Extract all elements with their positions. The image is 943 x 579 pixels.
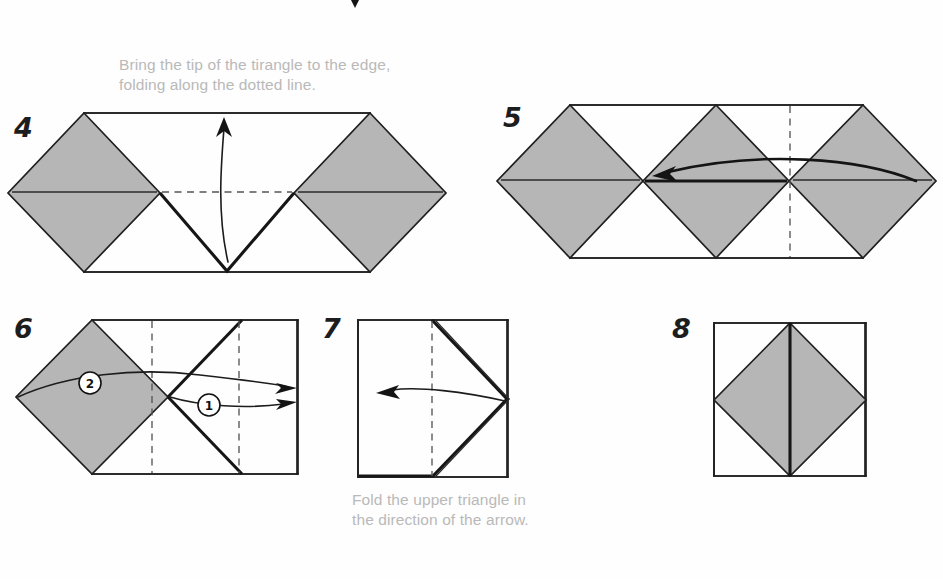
step-8-number: 8 xyxy=(672,313,691,344)
step-6-figure: 2 1 6 xyxy=(14,313,298,474)
step-marker-2: 2 xyxy=(79,372,101,394)
cropped-arrowhead-icon xyxy=(347,0,363,8)
step-8-figure: 8 xyxy=(672,313,866,476)
step-5-figure: 5 xyxy=(497,102,936,258)
step-7-caption-line-2: the direction of the arrow. xyxy=(352,511,529,528)
step-5-number: 5 xyxy=(503,102,522,133)
step-4-number: 4 xyxy=(13,112,33,143)
step-6-number: 6 xyxy=(14,313,33,344)
step-4-caption-line-1: Bring the tip of the tirangle to the edg… xyxy=(119,56,390,73)
svg-text:1: 1 xyxy=(205,399,213,413)
svg-text:2: 2 xyxy=(86,377,94,391)
step-4-caption-line-2: folding along the dotted line. xyxy=(119,76,316,93)
step-marker-1: 1 xyxy=(198,394,220,416)
origami-instruction-sheet: 4 Bring the tip of the tirangle to the e… xyxy=(0,0,943,579)
step-7-figure: 7 xyxy=(322,313,509,477)
step-4-figure: 4 xyxy=(8,112,446,272)
step-7-number: 7 xyxy=(322,313,341,344)
step-7-caption-line-1: Fold the upper triangle in xyxy=(352,491,526,508)
